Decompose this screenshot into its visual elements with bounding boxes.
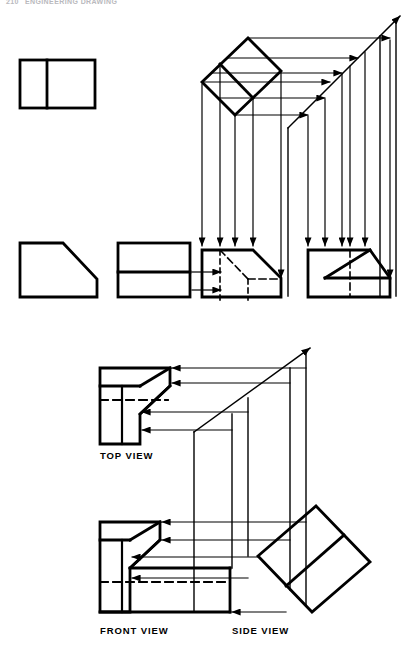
top-view-3d-lower bbox=[100, 368, 170, 444]
running-title: ENGINEERING DRAWING bbox=[25, 0, 117, 5]
top-view-label: TOP VIEW bbox=[100, 450, 153, 461]
front-view-3d-upper bbox=[202, 250, 281, 300]
orthographic-projection-diagram: TOP VIEW FRONT VIEW SIDE VIEW bbox=[0, 0, 410, 659]
top-view-flat-panel bbox=[20, 60, 95, 108]
tilted-top-panel bbox=[202, 38, 281, 115]
figure-root: 210ENGINEERING DRAWING bbox=[0, 0, 410, 659]
front-view-label: FRONT VIEW bbox=[100, 625, 169, 636]
transfer-arrows-middle bbox=[192, 272, 221, 290]
projection-rays-top-view bbox=[142, 368, 306, 430]
glass-box-lower bbox=[100, 348, 370, 612]
side-view-flat-panel bbox=[118, 243, 190, 297]
glass-box-upper bbox=[202, 16, 400, 300]
front-view-3d-lower bbox=[100, 522, 230, 612]
side-view-label: SIDE VIEW bbox=[232, 625, 289, 636]
side-view-3d-upper bbox=[308, 250, 390, 297]
page-header: 210ENGINEERING DRAWING bbox=[6, 0, 117, 5]
page-number: 210 bbox=[6, 0, 19, 5]
miter-line-upper bbox=[288, 16, 400, 128]
front-view-flat-panel bbox=[20, 243, 97, 297]
miter-line-lower bbox=[194, 348, 310, 432]
